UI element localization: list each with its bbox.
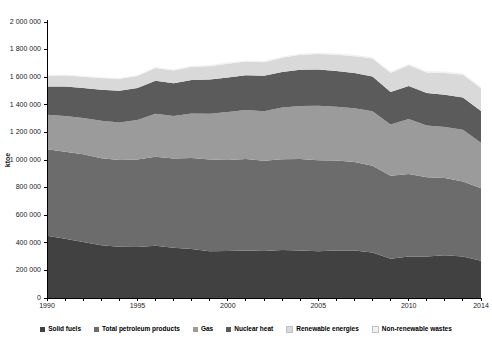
y-tick-label: 1 000 000	[10, 156, 41, 163]
legend-swatch-icon	[94, 327, 99, 332]
y-tick-label: 600 000	[16, 211, 41, 218]
y-tick-label: 800 000	[16, 183, 41, 190]
x-tick-label: 1990	[39, 302, 55, 309]
legend-item-total-petroleum-products[interactable]: Total petroleum products	[94, 326, 180, 333]
legend-swatch-icon	[372, 326, 379, 333]
legend-item-label: Gas	[201, 326, 213, 333]
legend-swatch-icon	[226, 327, 231, 332]
legend-item-label: Total petroleum products	[102, 326, 180, 333]
y-tick-label: 1 800 000	[10, 45, 41, 52]
y-tick-label: 1 600 000	[10, 73, 41, 80]
area-bands-group	[47, 53, 481, 298]
plot-area: 0200 000400 000600 000800 0001 000 0001 …	[0, 0, 492, 316]
legend-item-label: Renewable energies	[296, 326, 359, 333]
chart-svg: 0200 000400 000600 000800 0001 000 0001 …	[0, 0, 492, 316]
y-tick-label: 2 000 000	[10, 18, 41, 25]
y-tick-label: 1 200 000	[10, 128, 41, 135]
legend-item-solid-fuels[interactable]: Solid fuels	[40, 326, 81, 333]
x-axis-ticks: 199019952000200520102014	[39, 298, 489, 309]
y-tick-label: 0	[37, 294, 41, 301]
legend-item-renewable-energies[interactable]: Renewable energies	[286, 326, 359, 333]
legend-swatch-icon	[286, 326, 293, 333]
x-tick-label: 2014	[473, 302, 489, 309]
chart-legend: Solid fuelsTotal petroleum productsGasNu…	[0, 318, 492, 340]
legend-item-label: Solid fuels	[48, 326, 81, 333]
y-axis-title: ktoe	[4, 153, 11, 168]
legend-swatch-icon	[40, 327, 45, 332]
legend-item-nuclear-heat[interactable]: Nuclear heat	[226, 326, 273, 333]
legend-item-gas[interactable]: Gas	[193, 326, 213, 333]
y-tick-label: 400 000	[16, 239, 41, 246]
legend-swatch-icon	[193, 327, 198, 332]
legend-item-label: Nuclear heat	[234, 326, 273, 333]
x-tick-label: 2000	[220, 302, 236, 309]
y-tick-label: 1 400 000	[10, 101, 41, 108]
x-tick-label: 2005	[310, 302, 326, 309]
y-axis-ticks: 0200 000400 000600 000800 0001 000 0001 …	[10, 18, 47, 301]
legend-item-non-renewable-wastes[interactable]: Non-renewable wastes	[372, 326, 452, 333]
x-tick-label: 2010	[401, 302, 417, 309]
x-tick-label: 1995	[130, 302, 146, 309]
legend-item-label: Non-renewable wastes	[382, 326, 452, 333]
y-tick-label: 200 000	[16, 266, 41, 273]
stacked-area-chart: 0200 000400 000600 000800 0001 000 0001 …	[0, 0, 492, 345]
